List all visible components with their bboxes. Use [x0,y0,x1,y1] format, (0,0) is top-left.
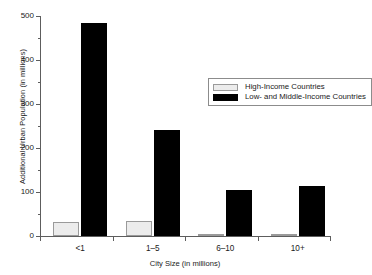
x-tick-mark [185,237,186,241]
x-tick-mark [330,237,331,241]
y-tick-mark [38,170,41,171]
y-tick-mark [38,214,41,215]
x-tick-label: 1–5 [146,245,160,253]
legend-label-high-income: High-Income Countries [245,83,325,91]
bar [226,190,252,236]
bar [154,130,180,236]
y-tick-label: 300 [21,100,34,108]
y-tick-mark [36,148,40,149]
y-tick-mark [36,192,40,193]
y-tick-mark [38,126,41,127]
y-tick-mark [38,82,41,83]
legend-entry-low-middle-income: Low- and Middle-Income Countries [213,92,366,102]
y-tick-mark [36,104,40,105]
y-tick-label: 500 [21,12,34,20]
x-tick-label: <1 [76,245,85,253]
light-swatch-icon [213,84,238,91]
y-axis-line [40,16,41,237]
bar [53,222,79,236]
y-tick-mark [38,38,41,39]
x-tick-mark [40,237,41,241]
x-tick-label: 6–10 [216,245,234,253]
x-axis-title: City Size (in millions) [40,259,330,268]
y-tick-label: 0 [30,232,34,240]
x-tick-mark [258,237,259,241]
plot-area: 0100200300400500 <11–56–1010+ High-Incom… [40,16,330,236]
chart-legend: High-Income Countries Low- and Middle-In… [208,78,372,106]
dark-swatch-icon [213,94,238,101]
bar [126,221,152,236]
y-tick-mark [36,60,40,61]
y-tick-label: 400 [21,56,34,64]
legend-entry-high-income: High-Income Countries [213,82,366,92]
bar [198,234,224,236]
y-tick-label: 100 [21,188,34,196]
y-tick-mark [36,16,40,17]
bar [81,23,107,236]
x-tick-mark [113,237,114,241]
bar [271,234,297,236]
bar [299,186,325,236]
y-tick-label: 200 [21,144,34,152]
legend-label-low-middle-income: Low- and Middle-Income Countries [245,93,366,101]
x-tick-label: 10+ [291,245,305,253]
